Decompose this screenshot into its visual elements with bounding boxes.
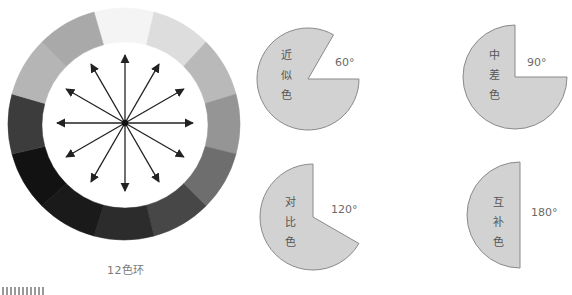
cropped-text-fragment xyxy=(2,286,46,295)
arrow-icon xyxy=(66,123,125,157)
pie-shape xyxy=(463,25,567,129)
pie-shape xyxy=(257,28,359,130)
arrow-icon xyxy=(66,89,125,123)
pie-medium-difference-angle: 90° xyxy=(527,56,547,69)
arrow-icon xyxy=(125,89,184,123)
wheel-caption: 12色环 xyxy=(96,261,156,277)
wheel-segment xyxy=(8,94,45,154)
wheel-segment xyxy=(205,94,240,154)
pie-analogous-angle: 60° xyxy=(335,56,355,69)
pie-shape xyxy=(260,164,359,270)
arrow-icon xyxy=(125,123,159,182)
arrow-icon xyxy=(125,123,184,157)
color-harmony-diagram: 12色环 近似色 60° 中差色 90° 对比色 120° 互补色 180° xyxy=(0,0,572,295)
arrow-icon xyxy=(91,123,125,182)
pie-analogous xyxy=(257,28,359,130)
pie-contrast-angle: 120° xyxy=(331,203,358,216)
pie-contrast-label: 对比色 xyxy=(283,193,297,253)
pie-complementary-label: 互补色 xyxy=(491,193,505,253)
wheel-segment xyxy=(94,205,154,240)
pie-contrast xyxy=(260,164,359,270)
pie-medium-difference xyxy=(463,25,567,129)
wheel-segment xyxy=(94,8,154,45)
pie-complementary-angle: 180° xyxy=(531,206,558,219)
wheel-center-dot xyxy=(122,120,128,126)
arrow-icon xyxy=(125,64,159,123)
pie-analogous-label: 近似色 xyxy=(279,46,293,106)
pie-medium-difference-label: 中差色 xyxy=(487,46,501,106)
arrow-icon xyxy=(91,64,125,123)
